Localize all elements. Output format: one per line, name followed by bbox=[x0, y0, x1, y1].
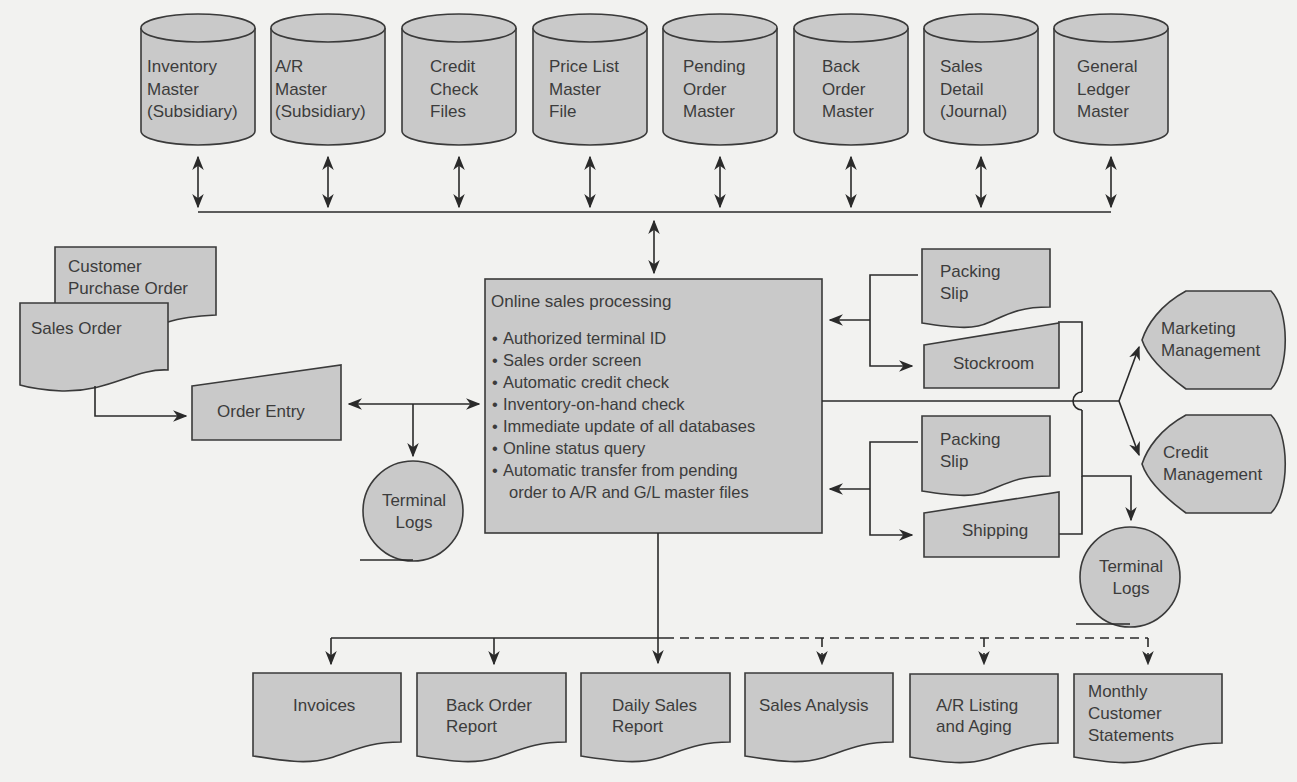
document-packing-slip-1: PackingSlip bbox=[922, 249, 1050, 327]
svg-text:Online sales processing: Online sales processing bbox=[491, 292, 671, 311]
stockroom-input: Stockroom bbox=[924, 323, 1059, 388]
svg-text:Shipping: Shipping bbox=[962, 521, 1028, 540]
report-daily-sales: Daily SalesReport bbox=[581, 673, 730, 762]
display-marketing-management: MarketingManagement bbox=[1142, 291, 1285, 389]
svg-text:Sales Analysis: Sales Analysis bbox=[759, 696, 869, 715]
database-inventory-master: InventoryMaster(Subsidiary) bbox=[141, 14, 255, 145]
database-pending-order-master: PendingOrderMaster bbox=[663, 14, 777, 145]
shipping-input: Shipping bbox=[924, 492, 1059, 557]
svg-text:Sales Order: Sales Order bbox=[31, 319, 122, 338]
document-packing-slip-2: PackingSlip bbox=[922, 416, 1050, 495]
report-invoices: Invoices bbox=[253, 673, 401, 762]
report-monthly-customer-statements: MonthlyCustomerStatements bbox=[1074, 674, 1222, 763]
report-sales-analysis: Sales Analysis bbox=[745, 673, 893, 762]
database-sales-detail-journal: SalesDetail(Journal) bbox=[924, 14, 1038, 145]
database-general-ledger-master: GeneralLedgerMaster bbox=[1054, 14, 1168, 145]
database-back-order-master: BackOrderMaster bbox=[794, 14, 908, 145]
terminal-logs-left: TerminalLogs bbox=[360, 461, 463, 561]
database-credit-check-files: CreditCheckFiles bbox=[402, 14, 516, 145]
flowchart-canvas: InventoryMaster(Subsidiary) A/RMaster(Su… bbox=[0, 0, 1297, 782]
document-sales-order: Sales Order bbox=[20, 303, 168, 391]
online-sales-processing-box: Online sales processing •Authorized term… bbox=[485, 279, 822, 533]
svg-text:GeneralLedgerMaster: GeneralLedgerMaster bbox=[1077, 57, 1137, 121]
terminal-logs-right: TerminalLogs bbox=[1076, 527, 1180, 627]
database-price-list-master: Price ListMasterFile bbox=[533, 14, 647, 145]
display-credit-management: CreditManagement bbox=[1142, 415, 1285, 513]
order-entry-input: Order Entry bbox=[192, 365, 341, 440]
report-back-order: Back OrderReport bbox=[417, 673, 566, 762]
svg-text:Order Entry: Order Entry bbox=[217, 402, 305, 421]
database-ar-master: A/RMaster(Subsidiary) bbox=[271, 14, 385, 145]
arrow-sales-order-to-order-entry bbox=[95, 386, 186, 416]
report-ar-listing-aging: A/R Listingand Aging bbox=[910, 674, 1058, 763]
svg-text:Stockroom: Stockroom bbox=[953, 354, 1034, 373]
svg-text:Invoices: Invoices bbox=[293, 696, 355, 715]
